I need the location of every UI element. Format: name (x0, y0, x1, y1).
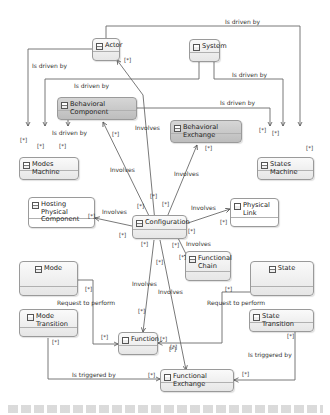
node-states-machine[interactable]: States Machine (257, 157, 314, 180)
multiplicity: [*] (225, 286, 232, 292)
class-icon (35, 266, 42, 273)
multiplicity: [*] (141, 241, 148, 247)
node-mode[interactable]: Mode (19, 261, 78, 296)
class-icon (253, 314, 260, 321)
multiplicity: [*] (259, 127, 266, 133)
class-icon (122, 337, 129, 344)
class-icon (174, 125, 181, 132)
multiplicity: [*] (162, 201, 169, 207)
label-involves: Involves (174, 170, 199, 177)
multiplicity: [*] (138, 308, 145, 314)
node-system[interactable]: System (189, 39, 220, 62)
node-behavioral-exchange[interactable]: Behavioral Exchange (170, 120, 242, 143)
class-icon (61, 102, 68, 109)
multiplicity: [*] (59, 143, 66, 149)
node-label: Mode (44, 265, 62, 273)
node-label: Mode Transition (36, 313, 70, 328)
edge-mode-function[interactable] (78, 280, 118, 344)
label-is-driven-by: Is driven by (74, 82, 109, 89)
multiplicity: [*] (242, 371, 249, 377)
label-involves: Involves (186, 240, 211, 247)
node-label: Functional Exchange (173, 373, 230, 388)
figure-caption-clipped (8, 405, 323, 413)
node-state-transition[interactable]: State Transition (249, 309, 314, 332)
multiplicity: [*] (306, 145, 313, 151)
multiplicity: [*] (172, 242, 179, 248)
label-is-driven-by: Is driven by (32, 62, 67, 69)
node-behavioral-component[interactable]: Behavioral Component (57, 97, 137, 120)
node-label: Functional Chain (198, 255, 232, 270)
node-functional-exchange[interactable]: Functional Exchange (160, 369, 234, 392)
multiplicity: [*] (272, 130, 279, 136)
node-label: Function (131, 336, 159, 344)
multiplicity: [*] (101, 334, 108, 340)
label-is-triggered-by: Is triggered by (248, 351, 292, 358)
class-icon (261, 162, 268, 169)
multiplicity: [*] (287, 333, 294, 339)
node-label: Modes Machine (32, 161, 75, 176)
multiplicity: [*] (160, 336, 167, 342)
label-is-driven-by: Is driven by (225, 18, 260, 25)
label-is-triggered-by: Is triggered by (72, 371, 116, 378)
node-label: Hosting Physical Component (41, 201, 89, 224)
node-label: Configuration (145, 219, 190, 227)
multiplicity: [*] (150, 193, 157, 199)
class-icon (189, 256, 196, 263)
label-involves: Involves (110, 166, 135, 173)
multiplicity: [*] (85, 286, 92, 292)
node-mode-transition[interactable]: Mode Transition (19, 309, 78, 337)
multiplicity: [*] (112, 131, 119, 137)
class-icon (234, 203, 241, 210)
node-label: States Machine (270, 161, 310, 176)
label-involves: Involves (158, 288, 183, 295)
multiplicity: [*] (20, 137, 27, 143)
node-modes-machine[interactable]: Modes Machine (19, 157, 79, 180)
node-label: Actor (105, 42, 122, 50)
class-icon (269, 266, 276, 273)
multiplicity: [*] (37, 143, 44, 149)
class-icon (193, 44, 200, 51)
multiplicity: [*] (88, 213, 95, 219)
label-is-driven-by: Is driven by (232, 71, 267, 78)
label-involves: Involves (132, 280, 157, 287)
class-icon (27, 314, 34, 321)
class-icon (32, 202, 39, 209)
label-is-driven-by: Is driven by (220, 99, 255, 106)
node-label: Physical Link (243, 202, 275, 217)
multiplicity: [*] (124, 57, 131, 63)
multiplicity: [*] (170, 344, 177, 350)
node-label: State (278, 265, 295, 273)
node-label: System (202, 43, 227, 51)
node-state[interactable]: State (250, 261, 314, 296)
node-label: Behavioral Component (70, 101, 133, 116)
node-label: State Transition (262, 313, 310, 328)
label-request-to-perform: Request to perform (57, 299, 115, 306)
node-configuration[interactable]: Configuration (132, 215, 187, 239)
node-actor[interactable]: Actor (92, 38, 120, 61)
multiplicity: [*] (220, 219, 227, 225)
multiplicity: [*] (156, 259, 163, 265)
label-involves: Involves (102, 208, 127, 215)
label-request-to-perform: Request to perform (207, 299, 265, 306)
class-icon (164, 374, 171, 381)
multiplicity: [*] (188, 228, 195, 234)
label-involves: Involves (135, 124, 160, 131)
class-icon (136, 220, 143, 227)
node-function[interactable]: Function (118, 332, 158, 355)
class-icon (96, 43, 103, 50)
label-involves: Involves (191, 204, 216, 211)
multiplicity: [*] (205, 145, 212, 151)
multiplicity: [*] (148, 372, 155, 378)
label-is-driven-by: Is driven by (52, 129, 87, 136)
multiplicity: [*] (52, 339, 59, 345)
node-physical-link[interactable]: Physical Link (230, 198, 279, 227)
node-hosting-physical-component[interactable]: Hosting Physical Component (28, 197, 95, 228)
multiplicity: [*] (137, 203, 144, 209)
multiplicity: [*] (119, 232, 126, 238)
multiplicity: [*] (179, 254, 186, 260)
node-functional-chain[interactable]: Functional Chain (185, 251, 231, 281)
edge-config-hpc[interactable] (95, 218, 132, 226)
class-icon (23, 162, 30, 169)
node-label: Behavioral Exchange (183, 124, 238, 139)
